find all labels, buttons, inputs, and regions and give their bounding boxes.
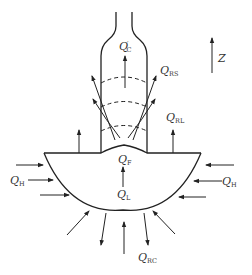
label-qh-right: QH — [222, 175, 237, 189]
label-qrs: QRS — [160, 64, 178, 78]
label-ql: QL — [117, 188, 131, 202]
heat-flow-diagram: Q′C QRS QRL QF QL QH QH QRC Z — [0, 0, 252, 275]
label-qc-prime: Q′C — [119, 40, 132, 54]
crystal-outline — [101, 12, 147, 153]
isotherms — [101, 77, 147, 131]
label-qf: QF — [118, 153, 132, 167]
label-qrl: QRL — [166, 111, 185, 125]
label-qrc: QRC — [138, 251, 157, 265]
z-axis-label: Z — [217, 52, 226, 65]
label-qh-left: QH — [10, 174, 25, 188]
qrc-arrows — [67, 211, 175, 254]
